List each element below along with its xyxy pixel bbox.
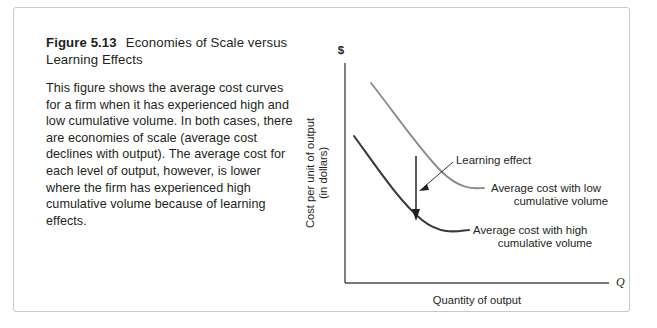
figure-number: Figure 5.13 (46, 35, 117, 50)
label-low-cumulative-volume: Average cost with low cumulative volume (491, 182, 608, 207)
figure-text-column: Figure 5.13Economies of Scale versus Lea… (46, 34, 298, 229)
figure-caption: This figure shows the average cost curve… (46, 80, 298, 229)
label-low-line1: Average cost with low (491, 182, 602, 194)
curve-low-cumulative-volume (371, 83, 484, 188)
annotation-learning-effect: Learning effect (456, 154, 532, 166)
figure-root: Figure 5.13Economies of Scale versus Lea… (0, 0, 657, 328)
y-axis-title: Cost per unit of output (in dollars) (304, 117, 329, 228)
learning-effect-arrow (412, 156, 420, 221)
figure-panel: Figure 5.13Economies of Scale versus Lea… (13, 7, 630, 312)
label-high-line1: Average cost with high (473, 224, 587, 236)
chart-area: $ Q Cost per unit of output (in dollars)… (298, 34, 638, 306)
x-axis-title: Quantity of output (433, 294, 522, 306)
y-axis-symbol: $ (338, 44, 345, 56)
label-high-cumulative-volume: Average cost with high cumulative volume (473, 224, 592, 249)
figure-title: Figure 5.13Economies of Scale versus Lea… (46, 34, 298, 68)
y-axis-title-line1: Cost per unit of output (304, 117, 316, 228)
x-axis-symbol: Q (616, 275, 625, 289)
y-axis-title-line2: (in dollars) (317, 147, 329, 199)
curve-high-cumulative-volume (354, 136, 469, 231)
label-low-line2: cumulative volume (514, 195, 608, 207)
label-high-line2: cumulative volume (498, 237, 592, 249)
